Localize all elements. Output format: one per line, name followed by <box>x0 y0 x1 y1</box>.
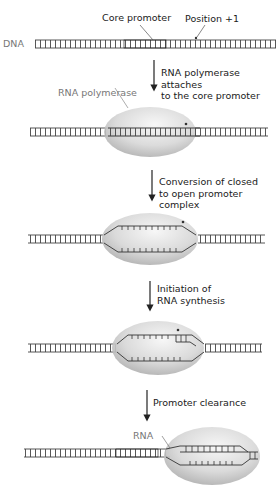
step-4-caption: Promoter clearance <box>153 397 246 409</box>
core-promoter-pointer <box>140 25 153 40</box>
position-pointer <box>197 25 205 37</box>
step-1-caption: RNA polymerase attaches to the core prom… <box>161 67 279 102</box>
dna-duplex <box>35 40 276 48</box>
rna-polymerase <box>102 213 198 265</box>
rna-pointer <box>162 436 170 448</box>
rna-polymerase-label: RNA polymerase <box>58 87 137 98</box>
step-2-caption: Conversion of closed to open promoter co… <box>159 176 279 211</box>
stage-open-complex <box>28 213 265 265</box>
position-plus-one-marker <box>195 37 197 39</box>
position-plus-one-label: Position +1 <box>185 13 239 24</box>
rna-polymerase <box>164 427 260 485</box>
stage-free-dna <box>35 25 276 48</box>
stage-initiation <box>28 321 262 375</box>
step-3-caption: Initiation of RNA synthesis <box>157 283 225 306</box>
dna-label: DNA <box>3 38 24 49</box>
core-promoter-label: Core promoter <box>102 12 171 23</box>
rna-polymerase <box>112 321 204 375</box>
rna-label: RNA <box>133 430 153 441</box>
